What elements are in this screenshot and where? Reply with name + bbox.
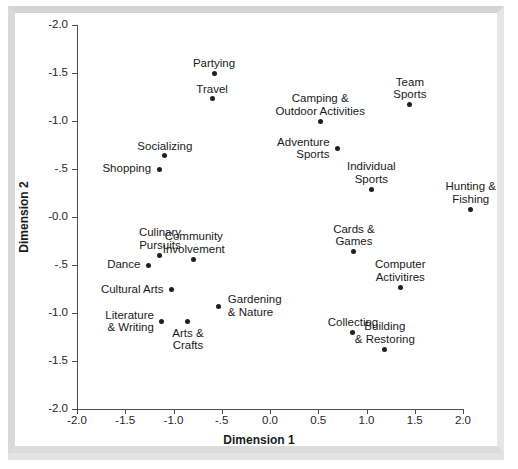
y-tick-mark bbox=[72, 25, 77, 26]
data-point-label: Building & Restoring bbox=[305, 320, 465, 345]
data-point-label: Community Involvement bbox=[114, 230, 274, 255]
data-point-label: Gardening & Nature bbox=[228, 293, 388, 318]
y-tick-label: -1.5 bbox=[22, 66, 68, 78]
data-point[interactable] bbox=[398, 285, 403, 290]
data-point[interactable] bbox=[210, 96, 215, 101]
data-point-label: Team Sports bbox=[330, 76, 490, 101]
data-point[interactable] bbox=[162, 153, 167, 158]
data-point-label: Computer Activitires bbox=[320, 258, 480, 283]
data-point-label: Cultural Arts bbox=[4, 283, 164, 296]
y-tick-mark bbox=[72, 121, 77, 122]
data-point[interactable] bbox=[318, 119, 323, 124]
y-tick-label: -2.0 bbox=[22, 402, 68, 414]
data-point[interactable] bbox=[382, 347, 387, 352]
x-tick-label: -1.0 bbox=[149, 414, 199, 426]
y-tick-label: -1.0 bbox=[22, 114, 68, 126]
y-tick-label: -1.5 bbox=[22, 354, 68, 366]
data-point[interactable] bbox=[146, 263, 151, 268]
data-point-label: Shopping bbox=[0, 162, 151, 175]
data-point[interactable] bbox=[212, 71, 217, 76]
data-point[interactable] bbox=[185, 319, 190, 324]
data-point-label: Dance bbox=[0, 258, 140, 271]
y-tick-mark bbox=[72, 73, 77, 74]
x-tick-label: 0.5 bbox=[293, 414, 343, 426]
scatter-plot: -2.0-1.5-1.0-.5-0.0-.5-1.0-1.5-2.0 -2.0-… bbox=[0, 0, 518, 469]
x-tick-label: 1.0 bbox=[342, 414, 392, 426]
x-tick-label: -2.0 bbox=[52, 414, 102, 426]
x-tick-label: -.5 bbox=[197, 414, 247, 426]
data-point-label: Arts & Crafts bbox=[108, 327, 268, 352]
data-point-label: Cards & Games bbox=[274, 223, 434, 248]
data-point[interactable] bbox=[216, 304, 221, 309]
data-point-label: Adventure Sports bbox=[170, 136, 330, 161]
y-axis-line bbox=[77, 25, 78, 410]
x-tick-label: 2.0 bbox=[438, 414, 488, 426]
x-tick-label: 0.0 bbox=[245, 414, 295, 426]
y-tick-mark bbox=[72, 217, 77, 218]
data-point-label: Partying bbox=[134, 57, 294, 70]
data-point[interactable] bbox=[351, 249, 356, 254]
data-point[interactable] bbox=[157, 167, 162, 172]
data-point[interactable] bbox=[191, 257, 196, 262]
x-tick-label: 1.5 bbox=[390, 414, 440, 426]
data-point[interactable] bbox=[159, 319, 164, 324]
data-point[interactable] bbox=[407, 102, 412, 107]
x-axis-title: Dimension 1 bbox=[0, 433, 518, 447]
x-tick-label: -1.5 bbox=[100, 414, 150, 426]
y-tick-mark bbox=[72, 361, 77, 362]
data-point[interactable] bbox=[169, 287, 174, 292]
data-point-label: Hunting & Fishing bbox=[391, 180, 518, 205]
data-point[interactable] bbox=[335, 146, 340, 151]
data-point[interactable] bbox=[369, 187, 374, 192]
data-point[interactable] bbox=[468, 207, 473, 212]
y-tick-label: -2.0 bbox=[22, 18, 68, 30]
